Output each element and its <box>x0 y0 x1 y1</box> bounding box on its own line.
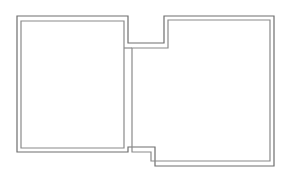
right-room-inner-wall <box>132 20 270 161</box>
outer-wall-outline <box>17 16 274 166</box>
left-room-inner-wall <box>21 21 124 148</box>
floor-plan-svg <box>0 0 282 179</box>
floor-plan-diagram <box>0 0 282 179</box>
